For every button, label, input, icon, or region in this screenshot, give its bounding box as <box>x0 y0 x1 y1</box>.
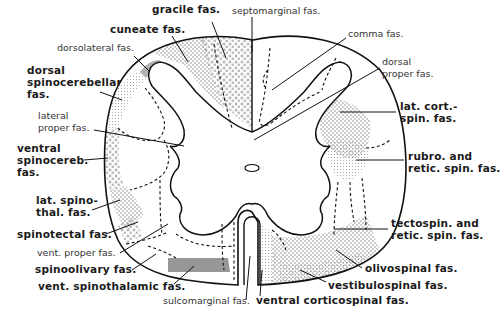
label-spinoolivary-fas: spinoolivary fas. <box>35 263 136 275</box>
label-lateral-proper-fas: lateral proper fas. <box>38 110 89 134</box>
label-vestibulospinal-fas: vestibulospinal fas. <box>328 279 448 291</box>
label-dorsal-spinocerebellar-fas: dorsal spinocerebellar fas. <box>27 64 122 100</box>
label-lat-spinothal-fas: lat. spino- thal. fas. <box>36 194 98 218</box>
label-septomarginal-fas: septomarginal fas. <box>232 5 320 17</box>
label-vent-spinothalamic-fas: vent. spinothalamic fas. <box>38 280 186 292</box>
central-canal <box>245 165 259 172</box>
label-lat-cort-spin-fas: lat. cort.- spin. fas. <box>400 100 458 124</box>
label-tectospin-retic-spin-fas: tectospin. and retic. spin. fas. <box>391 217 484 241</box>
label-vent-proper-fas: vent. proper fas. <box>37 247 116 259</box>
label-dorsolateral-fas: dorsolateral fas. <box>57 42 134 54</box>
label-rubro-retic-spin-fas: rubro. and retic. spin. fas. <box>408 150 501 174</box>
label-cuneate-fas: cuneate fas. <box>110 23 185 35</box>
label-comma-fas: comma fas. <box>348 28 404 40</box>
label-dorsal-proper-fas: dorsal proper fas. <box>382 56 433 80</box>
label-spinotectal-fas: spinotectal fas. <box>17 228 112 240</box>
label-olivospinal-fas: olivospinal fas. <box>365 262 458 274</box>
label-ventral-spinocereb-fas: ventral spinocereb. fas. <box>17 142 88 178</box>
label-ventral-corticospinal-fas: ventral corticospinal fas. <box>256 294 409 306</box>
label-sulcomarginal-fas: sulcomarginal fas. <box>163 295 250 307</box>
label-gracile-fas: gracile fas. <box>152 3 220 15</box>
